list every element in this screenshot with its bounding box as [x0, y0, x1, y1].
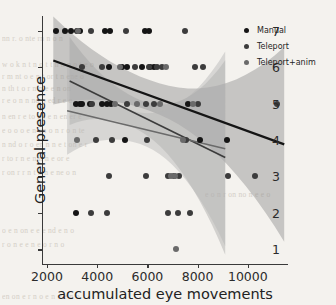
- data-point: [75, 28, 81, 34]
- data-point: [172, 173, 178, 179]
- data-point: [89, 101, 95, 107]
- data-point: [124, 64, 130, 70]
- data-point: [224, 137, 230, 143]
- y-tick-label: 4: [272, 133, 280, 148]
- data-point: [53, 28, 59, 34]
- legend-label: Teleport: [257, 42, 289, 51]
- data-point: [117, 64, 123, 70]
- data-point: [74, 137, 80, 143]
- data-point: [252, 173, 258, 179]
- data-point: [146, 28, 152, 34]
- y-tick-label: 1: [272, 242, 280, 257]
- data-point: [68, 28, 74, 34]
- figure-scatter-plot: nn r. o nte rn n o nw o k n t n o t t n …: [0, 0, 336, 305]
- x-tick-mark: [97, 264, 98, 268]
- legend-marker-icon: [244, 28, 249, 33]
- data-point: [107, 28, 113, 34]
- data-point: [225, 173, 231, 179]
- data-point: [143, 173, 149, 179]
- data-point: [134, 101, 140, 107]
- legend: ManualTeleportTeleport+anim: [244, 24, 316, 72]
- x-tick-mark: [47, 264, 48, 268]
- y-tick-label: 2: [272, 205, 280, 220]
- x-tick-mark: [147, 264, 148, 268]
- data-point: [93, 137, 99, 143]
- x-tick-label: 2000: [31, 269, 63, 284]
- data-point: [175, 210, 181, 216]
- data-point: [124, 101, 130, 107]
- data-point: [197, 137, 203, 143]
- data-point: [200, 64, 206, 70]
- legend-item: Teleport+anim: [244, 56, 316, 69]
- legend-label: Teleport+anim: [257, 58, 316, 67]
- data-point: [146, 64, 152, 70]
- data-point: [106, 173, 112, 179]
- data-point: [190, 101, 196, 107]
- legend-marker-icon: [244, 60, 249, 65]
- data-point: [180, 137, 186, 143]
- data-point: [104, 210, 110, 216]
- y-tick-mark: [38, 249, 42, 250]
- y-tick-mark: [38, 213, 42, 214]
- legend-label: Manual: [257, 26, 286, 35]
- x-axis-label: accumulated eye movements: [57, 286, 273, 302]
- data-point: [106, 64, 112, 70]
- data-point: [62, 28, 68, 34]
- data-point: [112, 101, 118, 107]
- x-tick-label: 10000: [228, 269, 268, 284]
- x-tick-label: 8000: [182, 269, 214, 284]
- data-point: [144, 137, 150, 143]
- data-point: [132, 64, 138, 70]
- data-point: [79, 101, 85, 107]
- y-tick-label: 5: [272, 96, 280, 111]
- data-point: [165, 210, 171, 216]
- y-tick-mark: [38, 31, 42, 32]
- regression-line-teleport-anim: [67, 111, 225, 149]
- data-point: [79, 64, 85, 70]
- y-axis-label: General presence: [32, 76, 48, 204]
- data-point: [109, 137, 115, 143]
- data-point: [157, 101, 163, 107]
- data-point: [88, 28, 94, 34]
- x-axis-spine: [42, 264, 288, 265]
- data-point: [122, 137, 128, 143]
- data-point: [99, 64, 105, 70]
- data-point: [143, 101, 149, 107]
- data-point: [173, 246, 179, 252]
- data-point: [192, 64, 198, 70]
- data-point: [187, 210, 193, 216]
- x-tick-mark: [198, 264, 199, 268]
- legend-item: Teleport: [244, 40, 316, 53]
- data-point: [182, 28, 188, 34]
- data-point: [151, 101, 157, 107]
- legend-marker-icon: [244, 44, 249, 49]
- y-tick-mark: [38, 67, 42, 68]
- x-tick-mark: [248, 264, 249, 268]
- x-tick-label: 6000: [132, 269, 164, 284]
- y-tick-label: 3: [272, 169, 280, 184]
- data-point: [123, 28, 129, 34]
- data-point: [139, 64, 145, 70]
- data-point: [163, 64, 169, 70]
- legend-item: Manual: [244, 24, 316, 37]
- x-tick-label: 4000: [81, 269, 113, 284]
- data-point: [88, 210, 94, 216]
- data-point: [73, 210, 79, 216]
- regression-line-teleport: [70, 81, 226, 158]
